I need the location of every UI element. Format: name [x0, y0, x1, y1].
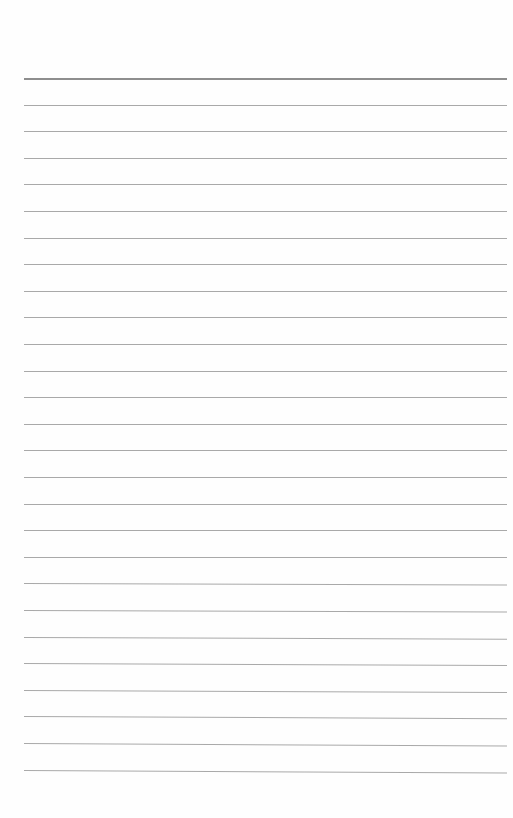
rule-line	[24, 530, 507, 531]
rule-line	[24, 105, 507, 106]
rule-line	[24, 663, 507, 666]
rule-line	[24, 610, 507, 613]
rule-line	[24, 557, 507, 558]
rule-line	[24, 690, 507, 693]
rule-line	[24, 184, 507, 185]
rule-line	[24, 424, 507, 425]
lined-paper-page	[0, 0, 513, 818]
rule-line	[24, 504, 507, 505]
rule-line	[24, 211, 507, 212]
rule-line	[24, 238, 507, 239]
rule-line	[24, 397, 507, 398]
rule-line	[24, 344, 507, 345]
rule-line	[24, 743, 507, 746]
rule-line	[24, 317, 507, 318]
rule-line	[24, 716, 507, 719]
rule-line	[24, 583, 507, 585]
rule-line	[24, 637, 507, 640]
rule-line	[24, 450, 507, 451]
rule-line	[24, 291, 507, 292]
rule-line	[24, 131, 507, 132]
rule-line	[24, 158, 507, 159]
top-rule-line	[24, 78, 507, 80]
rule-line	[24, 264, 507, 265]
rule-line	[24, 477, 507, 478]
rule-line	[24, 371, 507, 372]
rule-line	[24, 770, 507, 774]
